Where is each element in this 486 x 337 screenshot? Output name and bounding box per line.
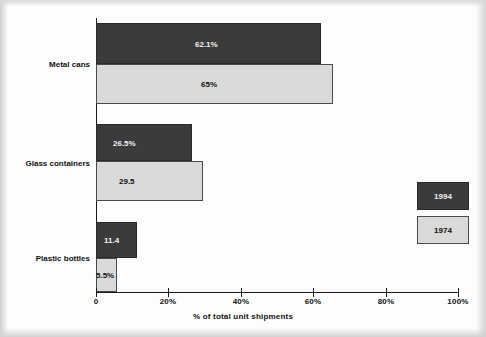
y-axis-category-label-plastic-bottles: Plastic bottles (6, 254, 90, 263)
page-edge-shadow-right (476, 0, 486, 337)
x-axis-tick-label-100: 100% (447, 297, 468, 306)
bar-glass-containers-1994: 26.5% (96, 124, 192, 161)
bar-value-label-metal-cans-1974: 65% (201, 80, 217, 89)
legend-swatch-1994: 1994 (417, 182, 469, 210)
page-edge-shadow-bottom (0, 328, 486, 337)
bar-metal-cans-1994: 62.1% (96, 23, 321, 64)
bar-value-label-glass-containers-1974: 29.5 (119, 177, 135, 186)
bar-value-label-glass-containers-1994: 26.5% (113, 138, 136, 147)
x-axis-tick-40 (241, 288, 242, 297)
x-axis-tick-label-40: 40% (233, 297, 250, 306)
bar-metal-cans-1974: 65% (96, 64, 333, 104)
x-axis-tick-0 (96, 288, 97, 297)
chart-figure: Metal cans Glass containers Plastic bott… (0, 0, 486, 337)
bar-value-label-metal-cans-1994: 62.1% (195, 39, 218, 48)
x-axis-tick-label-60: 60% (305, 297, 322, 306)
page-edge-shadow-top (0, 0, 486, 7)
y-axis-category-label-glass-containers: Glass containers (6, 159, 90, 168)
x-axis-tick-label-0: 0 (94, 297, 99, 306)
y-axis-category-label-metal-cans: Metal cans (6, 60, 90, 69)
x-axis-tick-100 (458, 288, 459, 297)
x-axis-title: % of total unit shipments (0, 312, 486, 321)
x-axis-tick-20 (168, 288, 169, 297)
legend-label-1994: 1994 (418, 192, 468, 201)
page-edge-shadow-left (0, 0, 8, 337)
x-axis-line (96, 292, 459, 293)
x-axis-tick-80 (386, 288, 387, 297)
bar-value-label-plastic-bottles-1974: 5.5% (96, 271, 114, 280)
bar-plastic-bottles-1974: 5.5% (96, 258, 117, 292)
legend-swatch-1974: 1974 (417, 216, 469, 244)
x-axis-tick-60 (313, 288, 314, 297)
bar-glass-containers-1974: 29.5 (96, 161, 203, 201)
bar-plastic-bottles-1994: 11.4 (96, 222, 137, 258)
x-axis-tick-label-80: 80% (378, 297, 395, 306)
legend-label-1974: 1974 (418, 226, 468, 235)
x-axis-tick-label-20: 20% (160, 297, 177, 306)
bar-value-label-plastic-bottles-1994: 11.4 (104, 236, 119, 245)
